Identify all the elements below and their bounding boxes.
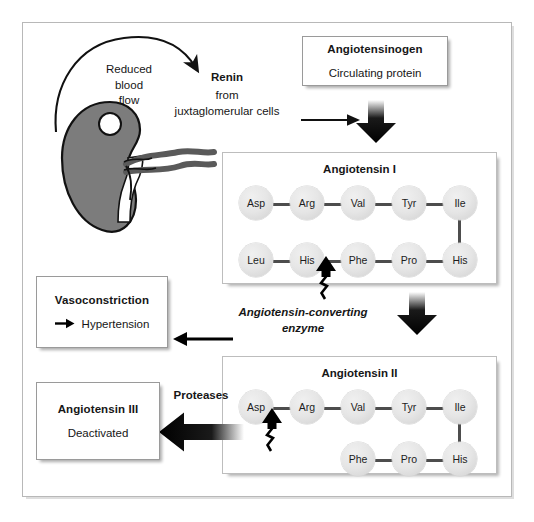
angiotensinogen-title: Angiotensinogen [327,42,422,56]
reduced-label-line1: Reduced [92,62,166,78]
renin-source-line1: from [168,88,286,104]
a1-residue-top-0: Asp [239,186,273,220]
a2-residue-bot-1: Pro [392,442,426,476]
a1-residue-top-1: Arg [290,186,324,220]
angiotensinogen-to-angiotensin1-arrow [355,100,397,144]
a1-residue-bot-2: Phe [341,243,375,277]
angiotensin-3-title: Angiotensin III [58,402,139,416]
angiotensin1-to-angiotensin2-arrow [396,292,438,336]
angiotensin2-to-vasoconstriction-arrow [172,330,234,348]
a2-residue-bot-2: His [443,442,477,476]
ace-label: Angiotensin-converting enzyme [218,305,388,336]
a1-residue-top-4: Ile [443,186,477,220]
a2-residue-top-1: Arg [290,390,324,424]
vasoconstriction-title: Vasoconstriction [55,293,149,307]
ace-cleavage-bolt-icon [313,256,339,300]
proteases-label: Proteases [155,388,247,404]
proteases-arrow [158,412,244,452]
angiotensin-1-panel: Angiotensin I Asp Arg Val Tyr Ile Leu Hi… [222,152,497,284]
angiotensin-3-subtitle: Deactivated [68,426,129,440]
angiotensinogen-subtitle: Circulating protein [329,66,422,80]
reduced-label-line2: blood [92,78,166,94]
renin-to-reaction-arrow [300,112,362,128]
a2-residue-top-2: Val [341,390,375,424]
a2-residue-bot-0: Phe [341,442,375,476]
angiotensin-2-title: Angiotensin II [223,367,496,379]
renin-source-line2: juxtaglomerular cells [158,104,296,120]
a1-residue-bot-4: His [443,243,477,277]
vasoconstriction-subtitle: Hypertension [82,317,150,331]
a1-residue-bot-3: Pro [392,243,426,277]
right-arrow-icon [55,318,75,329]
protease-cleavage-bolt-icon [259,408,285,452]
ace-label-line1: Angiotensin-converting [218,305,388,321]
reduced-blood-flow-label: Reduced blood flow [92,62,166,109]
reduced-label-line3: flow [92,93,166,109]
diagram-canvas: Reduced blood flow Renin from juxtaglome… [0,0,534,522]
vasoconstriction-subtitle-row: Hypertension [55,317,150,331]
renin-title: Renin [192,70,262,86]
a1-residue-top-3: Tyr [392,186,426,220]
a2-residue-top-4: Ile [443,390,477,424]
angiotensinogen-box: Angiotensinogen Circulating protein [302,36,448,86]
angiotensin-3-box: Angiotensin III Deactivated [36,382,160,460]
a1-residue-bot-0: Leu [239,243,273,277]
vasoconstriction-box: Vasoconstriction Hypertension [36,276,168,348]
a2-residue-top-3: Tyr [392,390,426,424]
ace-label-line2: enzyme [218,321,388,337]
a1-residue-top-2: Val [341,186,375,220]
angiotensin-1-title: Angiotensin I [223,163,496,175]
